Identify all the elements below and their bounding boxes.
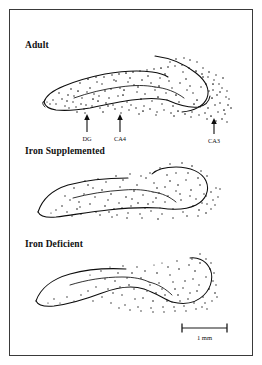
panel-iron-supplemented: Iron Supplemented (10, 130, 254, 225)
scale-bar: 1 mm (10, 316, 254, 356)
iron-supplemented-outline (38, 167, 208, 217)
iron-deficient-outline (36, 258, 212, 306)
adult-section-drawing: DG CA4 CA3 (10, 20, 254, 145)
adult-outline (43, 56, 210, 112)
panel-adult: Adult (10, 20, 254, 145)
scale-bar-label: 1 mm (197, 334, 213, 341)
panel-iron-deficient: Iron Deficient (10, 223, 254, 318)
scalebar-container: 1 mm (10, 316, 254, 356)
iron-deficient-section-drawing (10, 223, 254, 318)
figure-border: Adult (9, 9, 253, 356)
figure-root: Adult (0, 0, 262, 365)
iron-supplemented-section-drawing (10, 130, 254, 225)
iron-deficient-stipple-dots (47, 253, 217, 312)
adult-stipple-dots (46, 57, 231, 122)
